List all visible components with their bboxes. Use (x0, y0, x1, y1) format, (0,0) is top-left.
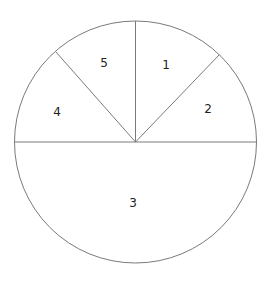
segment-label-2: 2 (204, 102, 212, 116)
segment-label-4: 4 (53, 105, 61, 119)
sector-diagram: 12345 (0, 0, 268, 283)
segment-label-1: 1 (162, 58, 170, 72)
segment-label-5: 5 (100, 56, 108, 70)
segment-label-3: 3 (129, 196, 137, 210)
